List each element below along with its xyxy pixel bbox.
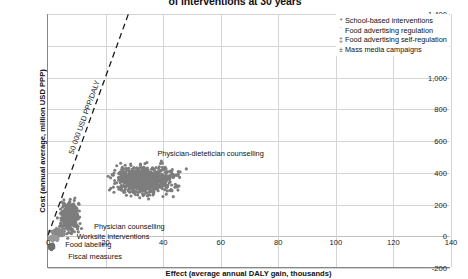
gridline-vertical: [451, 14, 452, 267]
legend-item: ˙Food advertising regulation: [337, 26, 447, 36]
x-tick-label: 40: [159, 238, 167, 247]
x-tick-label: 120: [387, 238, 400, 247]
legend-item-label: School-based interventions: [345, 16, 433, 26]
x-tick-label: 100: [330, 238, 343, 247]
legend-marker-icon: ±: [337, 45, 345, 55]
x-tick-label: 60: [216, 238, 224, 247]
x-tick-label: 80: [274, 238, 282, 247]
data-annotation-label: Physician-dietetician counselling: [157, 149, 263, 158]
y-tick-label: 400: [406, 168, 450, 177]
y-axis-title: Cost (annual average, million USD PPP): [38, 69, 47, 212]
legend-marker-icon: *: [337, 16, 345, 26]
y-tick-label: 800: [406, 105, 450, 114]
y-tick-label: 1,000: [406, 73, 450, 82]
legend-marker-icon: ˙: [337, 26, 345, 36]
chart-title: of interventions at 30 years: [130, 0, 340, 7]
data-annotation-label: Fiscal measures: [68, 252, 122, 261]
chart-container: of interventions at 30 years 50 000 USD …: [0, 0, 468, 279]
x-tick-label: 0: [46, 238, 50, 247]
chart-legend: *School-based interventions˙Food adverti…: [336, 14, 449, 56]
legend-item: ±Mass media campaigns: [337, 45, 447, 55]
legend-item-label: Food advertising regulation: [345, 26, 433, 36]
legend-marker-icon: ‡: [337, 35, 345, 45]
data-annotation-label: Physician counselling: [94, 222, 165, 231]
x-axis-title: Effect (average annual DALY gain, thousa…: [47, 269, 450, 278]
legend-item: ‡Food advertising self-regulation: [337, 35, 447, 45]
y-tick-label: 200: [406, 200, 450, 209]
y-tick-label: 0: [406, 232, 450, 241]
data-annotation-label: Food labelling: [65, 240, 111, 249]
y-tick-label: 600: [406, 137, 450, 146]
legend-item-label: Food advertising self-regulation: [345, 35, 447, 45]
legend-item-label: Mass media campaigns: [345, 45, 422, 55]
legend-item: *School-based interventions: [337, 16, 447, 26]
